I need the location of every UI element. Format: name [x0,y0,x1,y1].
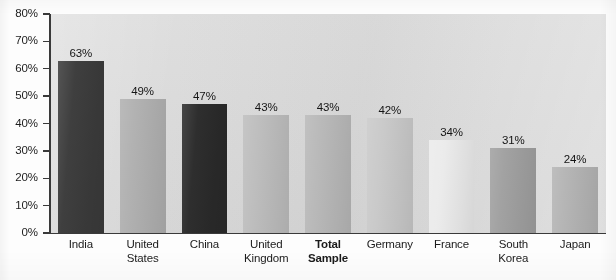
y-axis-label: 60% [0,62,38,74]
category-label-line1: Total [315,238,341,250]
category-label-line1: United [250,238,282,250]
category-label-line2: Sample [297,252,359,266]
y-axis-label: 0% [0,226,38,238]
category-label-line1: United [126,238,158,250]
y-axis-tick [43,68,50,69]
bar-value-label: 34% [440,126,463,138]
bar-shading [58,61,104,233]
category-label-line1: India [69,238,93,250]
bar-shading [490,148,536,233]
bar-shading [120,99,166,233]
category-label: France [421,238,483,252]
y-axis-tick [43,232,50,233]
category-label-line1: China [190,238,219,250]
bar-shading [182,104,228,233]
category-label-line2: States [112,252,174,266]
bar-value-label: 31% [502,134,525,146]
chart-title-cropped [0,0,616,6]
y-axis-label: 50% [0,89,38,101]
bar: 34% [429,140,475,233]
y-axis-label: 10% [0,199,38,211]
bar-value-label: 63% [70,47,93,59]
y-axis-tick [43,150,50,151]
bar-value-label: 43% [317,101,340,113]
category-label: India [50,238,112,252]
category-label-line1: Germany [367,238,413,250]
category-label-line1: France [434,238,469,250]
bar-shading [429,140,475,233]
y-axis-tick [43,205,50,206]
category-label: TotalSample [297,238,359,265]
bar-value-label: 42% [378,104,401,116]
category-label: UnitedStates [112,238,174,265]
bar: 49% [120,99,166,233]
bar-value-label: 49% [131,85,154,97]
y-axis-label: 40% [0,117,38,129]
category-label-line2: Kingdom [235,252,297,266]
y-axis-tick [43,95,50,96]
bar-value-label: 24% [564,153,587,165]
bar-shading [552,167,598,233]
y-axis-label: 30% [0,144,38,156]
bar-shading [367,118,413,233]
y-axis-tick [43,13,50,14]
category-label: SouthKorea [482,238,544,265]
bar: 43% [305,115,351,233]
y-axis-tick [43,178,50,179]
bar: 43% [243,115,289,233]
category-label: China [174,238,236,252]
bar-chart: 80%70%60%50%40%30%20%10%0% 63%49%47%43%4… [0,0,616,280]
category-label-line2: Korea [482,252,544,266]
y-axis-label: 80% [0,7,38,19]
bar-shading [305,115,351,233]
bar: 24% [552,167,598,233]
y-axis-label: 70% [0,34,38,46]
bar: 63% [58,61,104,233]
bar: 42% [367,118,413,233]
bar: 31% [490,148,536,233]
category-label-line1: Japan [560,238,591,250]
category-label: Japan [544,238,606,252]
bar-shading [243,115,289,233]
category-label: Germany [359,238,421,252]
y-axis-label: 20% [0,171,38,183]
y-axis-tick [43,41,50,42]
category-label: UnitedKingdom [235,238,297,265]
category-label-line1: South [499,238,528,250]
bar-value-label: 43% [255,101,278,113]
y-axis-tick [43,123,50,124]
bar-value-label: 47% [193,90,216,102]
bar: 47% [182,104,228,233]
